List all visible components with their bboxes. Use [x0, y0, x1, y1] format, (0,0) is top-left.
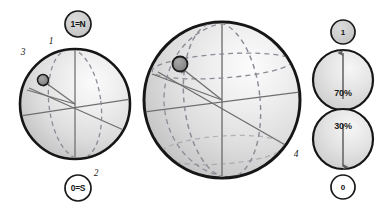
ref-label-1: 1 — [49, 36, 54, 46]
north-pole-badge-label: 1=N — [71, 19, 86, 29]
north-pole-badge[interactable]: 1=N — [65, 11, 91, 37]
probability-circle-30[interactable]: 30% — [313, 109, 373, 169]
probability-circle-70[interactable]: 70% — [313, 50, 373, 110]
south-pole-badge-label: 0=S — [71, 183, 86, 193]
ref-label-4: 4 — [294, 149, 299, 159]
ref-label-2: 2 — [94, 168, 99, 178]
probability-30-label: 30% — [334, 121, 352, 131]
measurement-probability-column: 1 70% 30% 0 — [313, 20, 373, 199]
outcome-one-badge[interactable]: 1 — [331, 20, 355, 44]
outcome-zero-badge[interactable]: 0 — [331, 175, 355, 199]
large-sphere-state-dot[interactable] — [173, 57, 188, 72]
small-sphere-state-dot[interactable] — [38, 75, 49, 86]
large-bloch-sphere: 4 — [144, 17, 313, 183]
outcome-one-badge-label: 1 — [341, 28, 346, 37]
ref-label-3: 3 — [20, 47, 26, 57]
figure-canvas: 1 2 3 1=N 0=S — [0, 0, 390, 211]
outcome-zero-badge-label: 0 — [341, 183, 346, 192]
small-bloch-sphere: 1 2 3 — [18, 36, 131, 178]
probability-70-label: 70% — [334, 88, 352, 98]
south-pole-badge[interactable]: 0=S — [65, 175, 91, 201]
bloch-sphere-figure: 1 2 3 1=N 0=S — [0, 0, 390, 211]
